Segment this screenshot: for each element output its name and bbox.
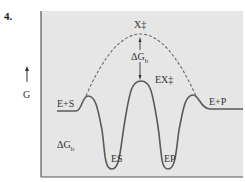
label-delta-g-top: ΔGb [131,52,148,65]
label-e-plus-p: E+P [209,97,226,107]
y-axis-label: G [23,90,30,100]
delta-g-symbol: ΔG [131,51,145,62]
label-e-plus-s: E+S [57,99,74,109]
label-delta-g-left: ΔGb [57,140,74,153]
delta-g-symbol: ΔG [57,139,71,150]
delta-g-subscript: b [145,57,149,65]
label-ex-double-dagger: EX‡ [155,75,173,85]
label-es: ES [111,154,123,164]
delta-g-subscript: b [71,145,75,153]
label-x-double-dagger: X‡ [134,20,146,30]
y-axis-arrow-icon [25,66,29,82]
label-ep: EP [164,154,176,164]
